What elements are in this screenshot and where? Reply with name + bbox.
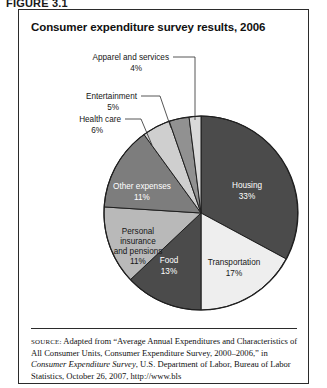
slice-label-housing: Housing: [232, 181, 262, 190]
source-line-1: Adapted from “Average Annual Expenditure…: [62, 336, 235, 346]
callout-label-apparel-and-services: Apparel and services: [93, 53, 169, 62]
slice-value-other-expenses: 11%: [134, 193, 150, 202]
callout-label-entertainment: Entertainment: [86, 92, 138, 101]
callout-value-entertainment: 5%: [107, 103, 119, 112]
slice-value-food: 13%: [161, 267, 177, 276]
slice-label-food: Food: [160, 256, 179, 265]
source-line-3-pre: 2000–2006,” in: [214, 348, 267, 358]
pie-chart: Housing 33% Transportation 17% Food 13% …: [19, 10, 307, 320]
source-tag: SOURCE:: [31, 338, 62, 345]
figure-box: Consumer expenditure survey results, 200…: [18, 9, 309, 384]
slice-label-personal-insurance-line2: insurance: [120, 237, 156, 246]
slice-label-personal-insurance-line1: Personal: [122, 227, 154, 236]
source-publication-title: Consumer Expenditure Survey: [31, 359, 136, 369]
slice-value-housing: 33%: [239, 192, 255, 201]
source-note: SOURCE: Adapted from “Average Annual Exp…: [31, 336, 301, 382]
leader-line-apparel-and-services: [173, 57, 195, 120]
callout-value-apparel-and-services: 4%: [130, 64, 142, 73]
source-line-3-post: , U.S. Department of: [136, 359, 208, 369]
figure-number-label: FIGURE 3.1: [6, 0, 68, 9]
slice-label-personal-insurance-line3: and pensions: [114, 247, 163, 256]
source-divider: [31, 328, 297, 329]
slice-value-personal-insurance: 11%: [130, 257, 146, 266]
slice-label-other-expenses: Other expenses: [113, 182, 171, 191]
slice-label-transportation: Transportation: [208, 258, 261, 267]
callout-label-health-care: Health care: [79, 115, 121, 124]
callout-value-health-care: 6%: [91, 126, 103, 135]
slice-value-transportation: 17%: [226, 269, 242, 278]
